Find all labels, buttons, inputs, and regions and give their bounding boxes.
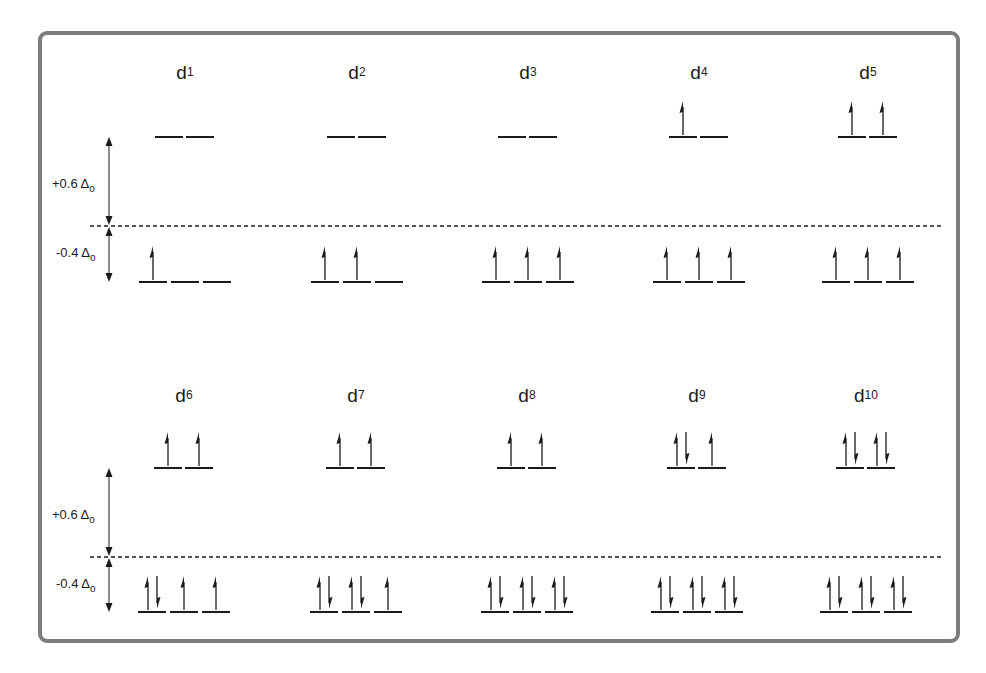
spin-up-arrowhead (897, 246, 901, 258)
spin-up-arrowhead (833, 246, 837, 258)
spin-up-arrowhead (849, 101, 853, 113)
spin-down-arrowhead (564, 597, 568, 609)
spin-up-arrowhead (354, 246, 358, 258)
config-letter: d (176, 62, 187, 83)
spin-up-arrowhead (664, 246, 668, 258)
spin-down-arrowhead (686, 453, 690, 465)
spin-up-arrowhead (874, 432, 878, 444)
spin-up-arrowhead (213, 576, 217, 588)
energy-prefix: -0.4 (56, 245, 81, 260)
config-electron-count: 6 (186, 388, 193, 402)
delta-symbol: Δ (81, 576, 90, 591)
configuration-label-d5: d5 (859, 62, 876, 84)
spin-down-arrowhead (670, 597, 674, 609)
energy-label-lower: -0.4 Δo (56, 245, 96, 263)
arrowhead-up (106, 137, 113, 146)
config-electron-count: 2 (359, 65, 366, 79)
configuration-label-d7: d7 (347, 385, 364, 407)
spin-up-arrowhead (317, 576, 321, 588)
spin-down-arrowhead (839, 597, 843, 609)
spin-up-arrowhead (557, 246, 561, 258)
spin-down-arrowhead (702, 597, 706, 609)
spin-up-arrowhead (165, 432, 169, 444)
config-electron-count: 5 (870, 65, 877, 79)
configuration-label-d6: d6 (175, 385, 192, 407)
config-letter: d (518, 385, 529, 406)
spin-down-arrowhead (855, 453, 859, 465)
arrowhead-down (106, 547, 113, 556)
config-letter: d (688, 385, 699, 406)
config-electron-count: 9 (699, 388, 706, 402)
spin-up-arrowhead (385, 576, 389, 588)
spin-up-arrowhead (674, 432, 678, 444)
config-letter: d (348, 62, 359, 83)
config-electron-count: 8 (529, 388, 536, 402)
arrowhead-down (106, 273, 113, 282)
spin-up-arrowhead (728, 246, 732, 258)
delta-subscript: o (89, 514, 95, 525)
spin-down-arrowhead (903, 597, 907, 609)
config-letter: d (859, 62, 870, 83)
configuration-label-d1: d1 (176, 62, 193, 84)
spin-up-arrowhead (891, 576, 895, 588)
delta-subscript: o (90, 252, 96, 263)
spin-down-arrowhead (532, 597, 536, 609)
configuration-label-d8: d8 (518, 385, 535, 407)
spin-down-arrowhead (157, 597, 161, 609)
spin-up-arrowhead (508, 432, 512, 444)
spin-up-arrowhead (709, 432, 713, 444)
spin-up-arrowhead (337, 432, 341, 444)
configuration-label-d2: d2 (348, 62, 365, 84)
spin-up-arrowhead (827, 576, 831, 588)
spin-down-arrowhead (886, 453, 890, 465)
config-letter: d (854, 385, 865, 406)
spin-down-arrowhead (361, 597, 365, 609)
config-electron-count: 7 (358, 388, 365, 402)
spin-up-arrowhead (150, 246, 154, 258)
config-electron-count: 3 (530, 65, 537, 79)
arrowhead-up (106, 227, 113, 236)
spin-up-arrowhead (722, 576, 726, 588)
spin-up-arrowhead (488, 576, 492, 588)
spin-up-arrowhead (658, 576, 662, 588)
configuration-label-d3: d3 (519, 62, 536, 84)
spin-up-arrowhead (349, 576, 353, 588)
energy-prefix: +0.6 (52, 507, 81, 522)
arrowhead-down (106, 216, 113, 225)
spin-up-arrowhead (690, 576, 694, 588)
spin-up-arrowhead (493, 246, 497, 258)
spin-up-arrowhead (196, 432, 200, 444)
configuration-label-d10: d10 (854, 385, 878, 407)
arrowhead-up (106, 468, 113, 477)
spin-down-arrowhead (871, 597, 875, 609)
config-letter: d (690, 62, 701, 83)
spin-up-arrowhead (181, 576, 185, 588)
energy-prefix: +0.6 (52, 176, 81, 191)
delta-subscript: o (89, 183, 95, 194)
arrowhead-down (106, 603, 113, 612)
spin-up-arrowhead (539, 432, 543, 444)
config-electron-count: 1 (187, 65, 194, 79)
energy-label-upper: +0.6 Δo (52, 176, 95, 194)
configuration-label-d9: d9 (688, 385, 705, 407)
config-letter: d (347, 385, 358, 406)
delta-symbol: Δ (81, 245, 90, 260)
spin-up-arrowhead (368, 432, 372, 444)
delta-symbol: Δ (81, 176, 90, 191)
spin-up-arrowhead (859, 576, 863, 588)
configuration-label-d4: d4 (690, 62, 707, 84)
config-letter: d (175, 385, 186, 406)
spin-up-arrowhead (552, 576, 556, 588)
spin-up-arrowhead (880, 101, 884, 113)
config-electron-count: 4 (701, 65, 708, 79)
config-letter: d (519, 62, 530, 83)
orbital-splitting-diagram (0, 0, 986, 673)
spin-up-arrowhead (696, 246, 700, 258)
delta-symbol: Δ (81, 507, 90, 522)
arrowhead-up (106, 558, 113, 567)
spin-up-arrowhead (525, 246, 529, 258)
spin-up-arrowhead (322, 246, 326, 258)
spin-down-arrowhead (500, 597, 504, 609)
energy-label-upper: +0.6 Δo (52, 507, 95, 525)
config-electron-count: 10 (865, 388, 878, 402)
